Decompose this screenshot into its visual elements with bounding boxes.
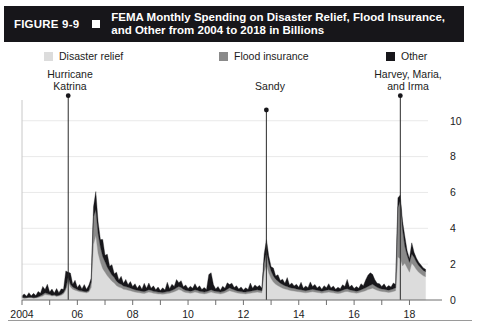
x-axis-tick-label: 06 bbox=[72, 308, 84, 320]
legend-swatch-disaster-relief bbox=[44, 52, 53, 61]
annotation-sandy: Sandy bbox=[215, 80, 325, 92]
annotation-katrina-line-1: Hurricane bbox=[47, 68, 93, 80]
legend-swatch-flood-insurance bbox=[219, 52, 228, 61]
x-axis-tick-label: 08 bbox=[127, 308, 139, 320]
x-axis-tick-label: 14 bbox=[293, 308, 305, 320]
y-axis-tick-label: 2 bbox=[450, 258, 456, 270]
legend-item-flood-insurance: Flood insurance bbox=[219, 50, 309, 62]
x-axis-tick-label: 10 bbox=[182, 308, 194, 320]
legend-label-disaster-relief: Disaster relief bbox=[59, 50, 123, 62]
annotation-marker-hmi bbox=[398, 93, 403, 98]
y-axis-tick-label: 10 bbox=[450, 115, 462, 127]
legend-label-other: Other bbox=[401, 50, 427, 62]
legend-item-other: Other bbox=[386, 50, 427, 62]
figure-title-line-2: and Other from 2004 to 2018 in Billions bbox=[111, 24, 324, 36]
annotation-hmi-line-1: Harvey, Maria, bbox=[374, 68, 442, 80]
y-axis-tick-label: 6 bbox=[450, 186, 456, 198]
figure-title-line-1: FEMA Monthly Spending on Disaster Relief… bbox=[111, 11, 445, 23]
figure-container: FIGURE 9-9 FEMA Monthly Spending on Disa… bbox=[0, 0, 480, 327]
legend-label-flood-insurance: Flood insurance bbox=[234, 50, 309, 62]
y-axis-tick-label: 4 bbox=[450, 222, 456, 234]
figure-number: FIGURE 9-9 bbox=[14, 18, 79, 30]
annotation-katrina-line-2: Katrina bbox=[53, 80, 86, 92]
stacked-area-chart: 0246810200406081012141618 bbox=[0, 92, 480, 327]
footer-rule bbox=[8, 320, 472, 321]
chart-legend: Disaster relief Flood insurance Other bbox=[0, 50, 480, 64]
x-axis-tick-label: 12 bbox=[238, 308, 250, 320]
chart-plot-area: 0246810200406081012141618 bbox=[0, 92, 480, 327]
y-axis-tick-label: 8 bbox=[450, 150, 456, 162]
x-axis-tick-label: 18 bbox=[404, 308, 416, 320]
square-bullet-icon bbox=[92, 20, 100, 28]
figure-title-bar: FIGURE 9-9 FEMA Monthly Spending on Disa… bbox=[4, 6, 464, 42]
legend-swatch-other bbox=[386, 52, 395, 61]
page-title: FEMA Monthly Spending on Disaster Relief… bbox=[111, 11, 445, 37]
x-axis-tick-label: 16 bbox=[348, 308, 360, 320]
annotation-sandy-line-1: Sandy bbox=[255, 80, 285, 92]
annotation-hurricane-katrina: Hurricane Katrina bbox=[10, 68, 130, 92]
x-axis-tick-label: 2004 bbox=[10, 308, 34, 320]
legend-item-disaster-relief: Disaster relief bbox=[44, 50, 123, 62]
y-axis-tick-label: 0 bbox=[450, 294, 456, 306]
annotation-hmi-line-2: and Irma bbox=[387, 80, 428, 92]
annotation-marker-sandy bbox=[264, 108, 269, 113]
annotation-marker-katrina bbox=[66, 93, 71, 98]
area-series-other bbox=[22, 192, 426, 298]
annotation-harvey-maria-irma: Harvey, Maria, and Irma bbox=[348, 68, 468, 92]
